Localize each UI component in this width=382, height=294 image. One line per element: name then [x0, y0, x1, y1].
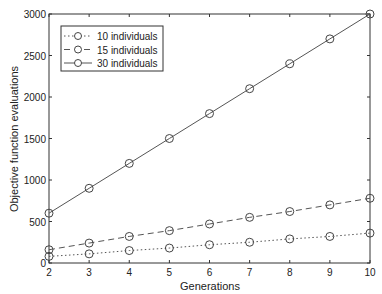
y-tick-label: 2000: [24, 92, 47, 103]
legend-entry: 15 individuals: [97, 45, 158, 56]
legend-entry: 30 individuals: [97, 58, 158, 69]
x-tick-label: 7: [247, 267, 253, 278]
x-axis-label: Generations: [180, 280, 240, 292]
x-tick-label: 9: [327, 267, 333, 278]
legend: 10 individuals15 individuals30 individua…: [61, 26, 163, 71]
x-tick-label: 6: [207, 267, 213, 278]
y-tick-label: 2500: [24, 51, 47, 62]
x-tick-label: 4: [126, 267, 132, 278]
legend-entry: 10 individuals: [97, 31, 158, 42]
y-axis-label: Objective function evaluations: [8, 65, 20, 212]
x-tick-label: 8: [287, 267, 293, 278]
series-line: [49, 233, 370, 256]
x-tick-label: 2: [46, 267, 52, 278]
line-chart: 2345678910050010001500200025003000 10 in…: [0, 0, 382, 294]
y-tick-label: 500: [29, 217, 46, 228]
x-tick-label: 3: [86, 267, 92, 278]
y-tick-label: 1500: [24, 134, 47, 145]
y-tick-label: 1000: [24, 175, 47, 186]
y-tick-label: 0: [40, 258, 46, 269]
x-tick-label: 5: [167, 267, 173, 278]
y-tick-label: 3000: [24, 9, 47, 20]
series-line: [49, 198, 370, 249]
x-tick-label: 10: [364, 267, 376, 278]
